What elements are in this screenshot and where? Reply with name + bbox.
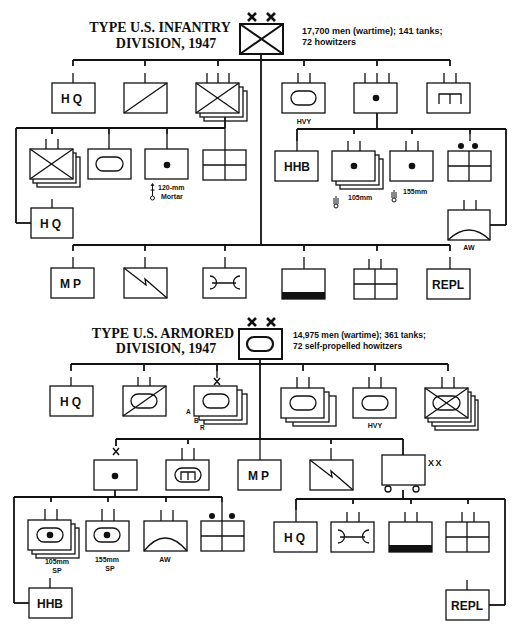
armd-trains-hq-label: HQ <box>284 531 308 545</box>
armd-combat-commands-unit: A B R <box>186 371 247 431</box>
org-chart-svg: TYPE U.S. INFANTRY DIVISION, 1947 17,700… <box>0 0 521 629</box>
inf-hhb-label: HHB <box>284 160 310 174</box>
armd-105-caption1: 105mm <box>45 558 69 565</box>
inf-battalions-unit <box>30 139 80 187</box>
inf-arty-service-unit <box>448 134 491 181</box>
infantry-division-chart: TYPE U.S. INFANTRY DIVISION, 1947 17,700… <box>16 13 506 299</box>
armd-ordnance-unit <box>331 512 374 552</box>
armd-hhb-label: HHB <box>37 597 63 611</box>
armd-trains-hq-unit: HQ <box>274 510 317 552</box>
armd-heavy-tank-unit: HVY <box>353 377 396 429</box>
inf-repl-unit: REPL <box>427 257 470 299</box>
inf-regiments-unit <box>196 73 247 121</box>
inf-repl-label: REPL <box>432 278 464 292</box>
inf-155-caption: 155mm <box>403 188 427 195</box>
armd-recon-unit <box>123 377 166 416</box>
armd-repl-label: REPL <box>451 599 483 613</box>
armd-div-arty-unit <box>94 448 137 490</box>
inf-regiment-hq-unit: HQ <box>31 199 73 238</box>
inf-hhb-unit: HHB <box>275 141 318 181</box>
armd-hq-label: HQ <box>60 395 84 409</box>
howitzer-icon <box>392 190 396 202</box>
inf-hvy-caption: HVY <box>297 118 312 125</box>
inf-div-arty-unit <box>354 73 397 128</box>
inf-recon-unit <box>124 73 167 113</box>
armd-mp-label: MP <box>248 469 272 483</box>
inf-mp-label: MP <box>60 277 84 291</box>
armd-quartermaster-unit <box>446 512 489 552</box>
inf-hq-label: HQ <box>61 92 85 106</box>
mortar-icon <box>151 184 155 201</box>
inf-signal-unit <box>124 257 167 298</box>
armd-trains-unit: XX <box>382 455 443 492</box>
infantry-division-symbol <box>240 13 283 54</box>
inf-aw-caption: AW <box>463 244 475 251</box>
inf-engineer-unit <box>427 73 470 113</box>
armd-medical-unit <box>389 512 432 552</box>
armored-division-chart: TYPE U.S. ARMORED DIVISION, 1947 14,975 … <box>14 318 505 620</box>
armd-155-caption2: SP <box>105 565 115 572</box>
inf-medical-unit <box>282 257 325 299</box>
org-chart-canvas: TYPE U.S. INFANTRY DIVISION, 1947 17,700… <box>0 0 521 629</box>
cc-letter-a: A <box>186 408 191 415</box>
armd-signal-unit <box>310 448 353 490</box>
armd-105-sp-unit: 105mm SP <box>28 509 79 574</box>
armd-mp-unit: MP <box>238 440 281 490</box>
infantry-stats-line1: 17,700 men (wartime); 141 tanks; <box>302 26 443 36</box>
armd-infantry-battalions-unit <box>425 377 478 430</box>
armd-arty-service-unit <box>201 502 244 551</box>
armd-155-caption1: 155mm <box>95 556 119 563</box>
inf-155-battalion-unit: 155mm <box>390 141 433 202</box>
inf-105-caption: 105mm <box>348 194 372 201</box>
inf-mp-unit: MP <box>51 257 94 298</box>
inf-ordnance-unit <box>203 257 246 298</box>
cc-letter-r: R <box>200 424 205 431</box>
armd-hvy-caption: HVY <box>368 422 383 429</box>
inf-mortar-caption1: 120-mm <box>158 184 184 191</box>
armd-engineer-unit <box>166 448 209 490</box>
infantry-title-line2: DIVISION, 1947 <box>116 36 216 51</box>
armored-title-line2: DIVISION, 1947 <box>116 341 216 356</box>
infantry-stats-line2: 72 howitzers <box>302 37 356 47</box>
armd-hq-unit: HQ <box>50 377 93 416</box>
armd-105-caption2: SP <box>52 567 62 574</box>
inf-105-battalions-unit: 105mm <box>332 141 383 208</box>
armored-title-line1: TYPE U.S. ARMORED <box>92 326 234 341</box>
cc-letter-b: B <box>194 417 199 424</box>
armd-155-sp-unit: 155mm SP <box>86 509 129 572</box>
howitzer-icon <box>334 196 338 208</box>
inf-regt-hq-label: HQ <box>40 217 64 231</box>
armored-stats-line2: 72 self-propelled howitzers <box>293 341 402 351</box>
inf-mortar-caption2: Mortar <box>161 193 183 200</box>
armored-stats-line1: 14,975 men (wartime); 361 tanks; <box>293 330 426 340</box>
inf-heavy-tank-unit: HVY <box>282 73 325 125</box>
inf-service-company-unit <box>203 128 246 180</box>
inf-tank-company-unit <box>88 134 131 179</box>
armd-tank-battalions-unit <box>281 377 336 426</box>
armd-repl-unit: REPL <box>446 580 489 620</box>
armored-division-symbol <box>239 318 282 359</box>
armd-hhb-unit: HHB <box>29 578 72 618</box>
armd-trains-echelon: XX <box>428 458 443 468</box>
inf-hq-unit: HQ <box>52 73 95 113</box>
inf-quartermaster-unit <box>354 259 397 299</box>
inf-mortar-company-unit: 120-mm Mortar <box>145 134 188 200</box>
armd-aw-unit: AW <box>144 510 187 563</box>
inf-aaa-aw-unit: AW <box>448 200 490 251</box>
armd-aw-caption: AW <box>159 556 171 563</box>
infantry-title-line1: TYPE U.S. INFANTRY <box>89 20 231 35</box>
